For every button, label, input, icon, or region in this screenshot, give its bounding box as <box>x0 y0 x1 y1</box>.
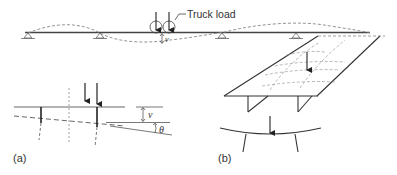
deflection-symbol-top: v <box>165 35 169 44</box>
continuous-beam <box>25 23 370 42</box>
panel-b-cross-section <box>220 116 321 152</box>
panel-b-label: (b) <box>218 152 231 164</box>
support-right-icon <box>289 33 303 39</box>
deflection-dimension-icon <box>160 34 164 44</box>
support-middle-right-icon <box>215 33 229 39</box>
truck-load-arrows-icon <box>150 12 186 33</box>
panel-b-deck <box>224 36 385 112</box>
diagram-canvas: Truck load v v θ (a) <box>0 0 397 175</box>
truck-load-label: Truck load <box>187 8 236 20</box>
panel-a-section <box>14 83 125 147</box>
rotation-symbol-a: θ <box>159 124 164 135</box>
panel-a-label: (a) <box>13 152 26 164</box>
deflection-symbol-a: v <box>148 109 153 120</box>
support-left-icon <box>21 33 35 39</box>
